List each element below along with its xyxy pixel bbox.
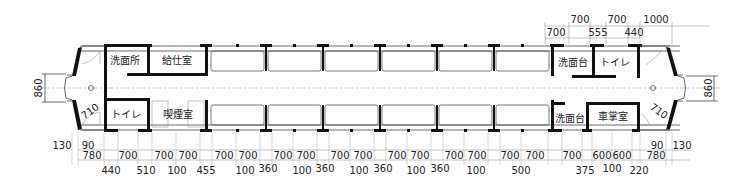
right-width-dim: 860 — [703, 78, 714, 97]
room-toilet-left: トイレ — [111, 109, 141, 120]
bottom-dim-lower: 375 — [575, 165, 594, 176]
top-dim-upper-2: 700 — [607, 14, 626, 25]
room-conductor: 車掌室 — [598, 110, 628, 122]
bottom-dimensions: 130 90 780 700 700 700 700 700 700 700 7… — [52, 132, 691, 176]
bottom-dim-lower: 100 — [292, 165, 311, 176]
bottom-dim-upper: 700 — [525, 150, 544, 161]
bottom-dim-upper: 700 — [387, 150, 406, 161]
bottom-dim-lower: 440 — [101, 165, 120, 176]
top-dim-upper-1: 700 — [570, 14, 589, 25]
top-dim-lower-2: 555 — [588, 27, 607, 38]
bottom-dim-lower: 500 — [511, 165, 530, 176]
bottom-dim-lower: 220 — [629, 165, 648, 176]
bottom-right-offset-130: 130 — [672, 140, 691, 151]
bottom-dim-lower: 100 — [406, 165, 425, 176]
bottom-left-offset-780: 780 — [82, 150, 101, 161]
bottom-dim-upper: 700 — [118, 150, 137, 161]
room-toilet-right: トイレ — [600, 57, 630, 68]
bottom-dim-lower: 360 — [373, 163, 392, 174]
bottom-dim-upper: 700 — [330, 150, 349, 161]
bottom-dim-lower: 100 — [167, 165, 186, 176]
bottom-dim-upper: 700 — [410, 150, 429, 161]
room-washbasin-right-top: 洗面台 — [558, 56, 588, 68]
room-smoking: 喫煙室 — [163, 108, 193, 120]
bottom-dim-upper: 700 — [467, 150, 486, 161]
top-dim-lower-3: 440 — [624, 27, 643, 38]
bottom-dim-lower: 100 — [466, 165, 485, 176]
left-width-dim: 860 — [33, 78, 44, 97]
bottom-dim-lower: 100 — [235, 165, 254, 176]
top-dim-lower-1: 700 — [546, 27, 565, 38]
bottom-dim-upper: 700 — [353, 150, 372, 161]
top-dim-upper-3: 1000 — [643, 14, 668, 25]
bottom-dim-upper: 700 — [444, 150, 463, 161]
room-pantry: 給仕室 — [162, 54, 192, 66]
bottom-dim-lower: 360 — [315, 163, 334, 174]
bottom-dim-upper: 600 — [592, 150, 611, 161]
bottom-right-offset-780: 780 — [646, 150, 665, 161]
bottom-dim-upper: 700 — [273, 150, 292, 161]
bottom-dim-upper: 700 — [296, 150, 315, 161]
bottom-dim-lower: 510 — [136, 165, 155, 176]
bottom-dim-upper: 600 — [612, 150, 631, 161]
bottom-dim-lower: 455 — [196, 165, 215, 176]
bottom-dim-lower: 100 — [349, 165, 368, 176]
right-door-dim: 710 — [648, 101, 670, 121]
bottom-dim-upper: 700 — [214, 150, 233, 161]
bottom-dim-upper: 700 — [500, 150, 519, 161]
bottom-dim-upper: 700 — [238, 150, 257, 161]
left-door-dim: 710 — [79, 101, 101, 121]
bottom-dim-lower: 360 — [430, 163, 449, 174]
bottom-dim-upper: 700 — [154, 150, 173, 161]
bottom-dim-lower: 360 — [258, 163, 277, 174]
room-washbasin-right-bottom: 洗面台 — [555, 112, 585, 124]
room-washroom-left: 洗面所 — [110, 55, 140, 66]
bottom-left-offset-130: 130 — [52, 140, 71, 151]
bottom-dim-lower: 100 — [602, 163, 621, 174]
bottom-dim-upper: 700 — [178, 150, 197, 161]
top-dimensions: 700 700 1000 700 555 440 — [545, 14, 710, 44]
floor-plan-diagram: 860 710 洗面所 給仕室 トイレ 喫煙室 — [0, 0, 754, 187]
bottom-dim-upper: 700 — [562, 150, 581, 161]
